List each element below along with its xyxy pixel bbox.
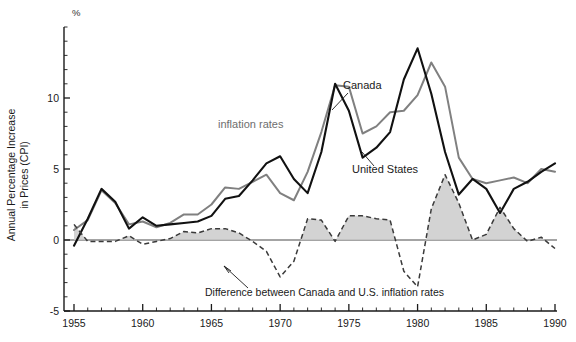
inflation-rates-group-label: inflation rates [218, 118, 284, 130]
series-line-united-states [74, 48, 555, 245]
inflation-rates-line-chart: Annual Percentage Increase in Prices (CP… [0, 0, 576, 342]
y-tick-label: 0 [53, 234, 59, 246]
difference-positive-area [74, 175, 555, 287]
difference-leader-line [224, 266, 248, 288]
chart-plot-area [74, 48, 555, 287]
series-line-canada [74, 63, 555, 231]
x-tick-label: 1985 [475, 317, 499, 329]
x-tick-label: 1990 [543, 317, 567, 329]
y-axis-title-line2: in Prices (CPI) [18, 141, 30, 209]
y-axis-title-line1: Annual Percentage Increase [5, 109, 17, 242]
svg-text:Canada: Canada [343, 79, 382, 91]
y-tick-label: 5 [53, 163, 59, 175]
x-tick-label: 1980 [406, 317, 430, 329]
y-tick-label: 10 [47, 92, 59, 104]
x-tick-label: 1965 [200, 317, 224, 329]
y-axis-title: Annual Percentage Increase in Prices (CP… [5, 109, 30, 242]
x-tick-label: 1970 [268, 317, 292, 329]
difference-annotation: Difference between Canada and U.S. infla… [205, 266, 444, 298]
y-tick-label: -5 [50, 305, 59, 317]
x-tick-label: 1975 [337, 317, 361, 329]
svg-text:Difference between Canada and: Difference between Canada and U.S. infla… [205, 286, 444, 298]
chart-figure: Annual Percentage Increase in Prices (CP… [0, 0, 576, 342]
svg-text:United States: United States [352, 163, 419, 175]
x-tick-label: 1960 [131, 317, 155, 329]
percent-unit-label: % [72, 7, 81, 18]
chart-axes [64, 27, 557, 311]
x-tick-label: 1955 [62, 317, 86, 329]
